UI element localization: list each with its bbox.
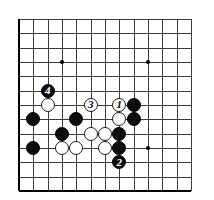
grid-line-vertical [177, 19, 178, 191]
stone-move-number: 4 [45, 85, 51, 96]
grid-line-vertical [148, 19, 149, 191]
grid-line-vertical [162, 19, 163, 191]
stone-move-number: 1 [117, 99, 123, 110]
stone-move-number: 2 [117, 157, 123, 168]
grid-line-vertical [33, 19, 34, 191]
stone-white[interactable] [41, 98, 55, 112]
stone-move-number: 3 [88, 99, 94, 110]
grid-line-vertical [62, 19, 63, 191]
stone-black[interactable] [112, 141, 126, 155]
stone-move-4[interactable]: 4 [41, 84, 55, 98]
stone-white[interactable] [98, 127, 112, 141]
stone-black[interactable] [55, 127, 69, 141]
star-point [146, 146, 150, 150]
stone-black[interactable] [26, 112, 40, 126]
stone-black[interactable] [112, 127, 126, 141]
stone-white[interactable] [112, 112, 126, 126]
go-diagram: 4312 [0, 0, 214, 200]
star-point [146, 60, 150, 64]
stone-white[interactable] [98, 141, 112, 155]
stone-move-3[interactable]: 3 [84, 98, 98, 112]
stone-black[interactable] [69, 112, 83, 126]
star-point [60, 60, 64, 64]
stone-move-1[interactable]: 1 [112, 98, 126, 112]
grid-line-vertical [105, 19, 106, 191]
grid-line-vertical [191, 19, 192, 191]
stone-black[interactable] [26, 141, 40, 155]
stone-white[interactable] [69, 141, 83, 155]
grid-line-vertical [76, 19, 77, 191]
grid-line-vertical [18, 19, 20, 191]
stone-move-2[interactable]: 2 [112, 155, 126, 169]
stone-white[interactable] [84, 127, 98, 141]
stone-black[interactable] [127, 98, 141, 112]
go-board[interactable]: 4312 [0, 0, 214, 200]
stone-black[interactable] [127, 112, 141, 126]
stone-white[interactable] [55, 141, 69, 155]
